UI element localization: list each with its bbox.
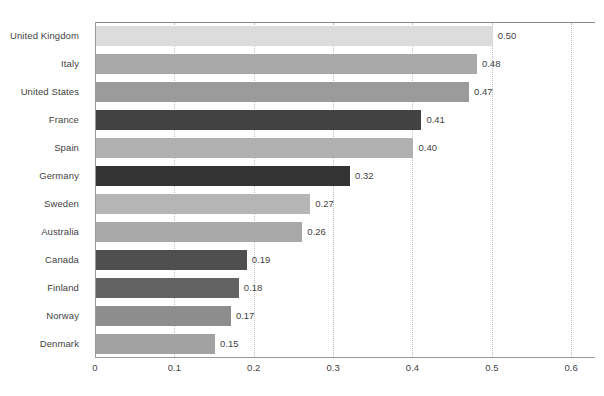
- bar[interactable]: [96, 82, 469, 102]
- bar-value-label: 0.41: [426, 112, 445, 128]
- bar[interactable]: [96, 250, 247, 270]
- bar-row[interactable]: 0.48: [96, 50, 595, 78]
- bar-row[interactable]: 0.47: [96, 78, 595, 106]
- x-tick-label: 0.4: [406, 362, 419, 373]
- bar-row[interactable]: 0.19: [96, 246, 595, 274]
- bar[interactable]: [96, 138, 413, 158]
- x-axis-tick-labels: 00.10.20.30.40.50.6: [95, 362, 595, 382]
- category-label-united-kingdom: United Kingdom: [0, 31, 79, 41]
- bar-row[interactable]: 0.26: [96, 218, 595, 246]
- x-tick-label: 0.2: [247, 362, 260, 373]
- bar[interactable]: [96, 26, 493, 46]
- bar-value-label: 0.47: [474, 84, 493, 100]
- bar[interactable]: [96, 278, 239, 298]
- bar-row[interactable]: 0.18: [96, 274, 595, 302]
- bar[interactable]: [96, 306, 231, 326]
- x-tick-label: 0: [92, 362, 97, 373]
- category-label-united-states: United States: [0, 87, 79, 97]
- x-tick-label: 0.5: [485, 362, 498, 373]
- bar-row[interactable]: 0.50: [96, 22, 595, 50]
- category-label-finland: Finland: [0, 283, 79, 293]
- x-tick-label: 0.1: [168, 362, 181, 373]
- bar-row[interactable]: 0.41: [96, 106, 595, 134]
- bar[interactable]: [96, 54, 477, 74]
- bar-value-label: 0.17: [236, 308, 255, 324]
- bar-value-label: 0.15: [220, 336, 239, 352]
- category-label-spain: Spain: [0, 143, 79, 153]
- x-tick-label: 0.6: [565, 362, 578, 373]
- category-label-france: France: [0, 115, 79, 125]
- bar-chart: United KingdomItalyUnited StatesFranceSp…: [0, 0, 604, 396]
- bar-value-label: 0.19: [252, 252, 271, 268]
- bar-value-label: 0.50: [498, 28, 517, 44]
- category-label-norway: Norway: [0, 311, 79, 321]
- bar[interactable]: [96, 222, 302, 242]
- bar-row[interactable]: 0.40: [96, 134, 595, 162]
- bar-series: 0.500.480.470.410.400.320.270.260.190.18…: [96, 22, 595, 358]
- category-label-australia: Australia: [0, 227, 79, 237]
- category-label-germany: Germany: [0, 171, 79, 181]
- bar[interactable]: [96, 194, 310, 214]
- category-label-sweden: Sweden: [0, 199, 79, 209]
- bar-row[interactable]: 0.32: [96, 162, 595, 190]
- bar-value-label: 0.48: [482, 56, 501, 72]
- bar-row[interactable]: 0.15: [96, 330, 595, 358]
- plot-area: 0.500.480.470.410.400.320.270.260.190.18…: [95, 22, 595, 358]
- bar[interactable]: [96, 334, 215, 354]
- bar[interactable]: [96, 166, 350, 186]
- bar-row[interactable]: 0.27: [96, 190, 595, 218]
- bar-value-label: 0.27: [315, 196, 334, 212]
- x-tick-label: 0.3: [326, 362, 339, 373]
- bar-value-label: 0.32: [355, 168, 374, 184]
- category-label-denmark: Denmark: [0, 339, 79, 349]
- bar-value-label: 0.26: [307, 224, 326, 240]
- category-label-italy: Italy: [0, 59, 79, 69]
- bar-value-label: 0.40: [418, 140, 437, 156]
- bar-row[interactable]: 0.17: [96, 302, 595, 330]
- bar-value-label: 0.18: [244, 280, 263, 296]
- category-axis-labels: United KingdomItalyUnited StatesFranceSp…: [0, 22, 88, 358]
- category-label-canada: Canada: [0, 255, 79, 265]
- bar[interactable]: [96, 110, 421, 130]
